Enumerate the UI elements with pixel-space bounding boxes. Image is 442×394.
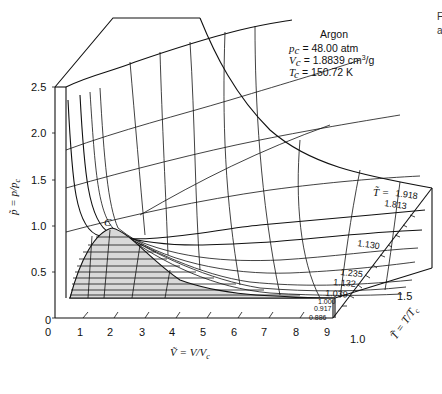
isotherm-prefix: T̃ = <box>373 186 389 198</box>
edge-fragment-bottom: a <box>437 25 442 36</box>
p-tick-1.0: 1.0 <box>31 220 46 232</box>
critical-point-label: C <box>104 216 112 228</box>
v-tick-6: 6 <box>231 326 237 338</box>
v-tick-8: 8 <box>293 326 299 338</box>
pressure-axis: 2.5 2.0 1.5 1.0 0.5 0 p̃ = p/pc <box>7 81 55 326</box>
v-tick-3: 3 <box>139 326 145 338</box>
v-tick-9: 9 <box>324 326 330 338</box>
p-tick-2.0: 2.0 <box>31 127 46 139</box>
critical-temperature: Tc= 150.72 K <box>289 66 353 80</box>
isotherm-label-0.886: 0.886 <box>309 314 327 321</box>
isotherm-label-1.130: 1.130 <box>357 238 381 251</box>
p-tick-2.5: 2.5 <box>31 81 46 93</box>
volume-axis: 0 1 2 3 4 5 6 7 8 9 Ṽ = V/Vc <box>45 312 330 361</box>
pressure-axis-title: p̃ = p/pc <box>7 179 22 216</box>
t-tick-1.0: 1.0 <box>350 333 365 345</box>
edge-fragment-top: F <box>437 11 442 22</box>
p-tick-1.5: 1.5 <box>31 174 46 186</box>
argon-pvt-surface-diagram: C 2.5 2.0 1.5 1.0 0.5 0 p̃ = p/pc 0 1 2 … <box>0 0 442 394</box>
critical-constants-info: Argon pc= 48.00 atm Vc= 1.8839 cm3/g Tc=… <box>288 28 375 80</box>
isotherm-label-1.000: 1.000 <box>318 298 336 305</box>
temperature-axis-title: T̃ = T/Tc <box>388 303 422 343</box>
v-tick-5: 5 <box>200 326 206 338</box>
v-tick-4: 4 <box>169 326 175 338</box>
v-tick-1: 1 <box>77 326 83 338</box>
v-tick-7: 7 <box>261 326 267 338</box>
isotherm-label-1.813: 1.813 <box>384 198 408 211</box>
t-tick-1.5: 1.5 <box>397 290 412 302</box>
v-tick-0: 0 <box>45 326 51 338</box>
isotherm-label-1.132: 1.132 <box>333 277 356 289</box>
v-tick-2: 2 <box>107 326 113 338</box>
isotherm-label-0.917: 0.917 <box>314 305 332 312</box>
p-tick-0.5: 0.5 <box>31 266 46 278</box>
p-tick-0: 0 <box>45 314 51 326</box>
substance-name: Argon <box>320 28 348 40</box>
volume-axis-title: Ṽ = V/Vc <box>170 346 210 361</box>
two-phase-dome: C <box>70 216 335 298</box>
